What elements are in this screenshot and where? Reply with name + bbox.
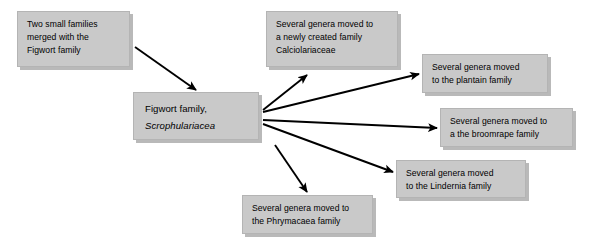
node-text-line: Several genera moved to [276,18,389,31]
node-text-line: a the broomrape family [450,128,564,141]
node-text-line: Several genera moved [406,167,517,180]
edge-center-to-broomrape [263,120,437,128]
node-text-line: a newly created family [276,31,389,44]
node-text-line: Two small families [27,18,121,31]
node-text-line: Several genera moved to [252,202,364,215]
node-merged-families: Two small families merged with the Figwo… [17,11,130,67]
node-text-line: Several genera moved [432,61,539,74]
node-text-line: to the Lindernia family [406,180,517,193]
node-calciolariaceae: Several genera moved to a newly created … [266,11,398,67]
node-text-line: merged with the [27,31,121,44]
node-text-line-italic: Scrophulariacea [145,117,248,134]
edge-center-to-calciolariaceae [263,75,307,110]
node-text-line: to the plantain family [432,74,539,87]
node-figwort-family-center: Figwort family, Scrophulariacea [133,92,259,140]
node-text-line: Several genera moved to [450,115,564,128]
node-lindernia-family: Several genera moved to the Lindernia fa… [396,160,526,198]
node-phrymacaea-family: Several genera moved to the Phrymacaea f… [242,195,373,234]
node-broomrape-family: Several genera moved to a the broomrape … [440,108,573,147]
edge-center-to-phrymacaea [275,145,307,192]
edge-center-to-lindernia [263,124,393,172]
node-text-line: Figwort family, [145,100,248,117]
edge-merged-to-center [135,47,196,90]
node-plantain-family: Several genera moved to the plantain fam… [422,54,548,93]
diagram-canvas: Two small families merged with the Figwo… [0,0,598,251]
node-text-line: Calciolariaceae [276,44,389,57]
node-text-line: Figwort family [27,44,121,57]
node-text-line: the Phrymacaea family [252,215,364,228]
edge-center-to-plantain [263,74,419,112]
